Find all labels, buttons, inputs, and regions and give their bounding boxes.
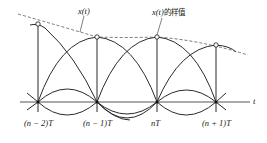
sample-dot-n-2 — [36, 22, 40, 26]
tick-label-n-2: (n − 2)T — [24, 118, 53, 128]
samples-label: x(t)的样值 — [152, 6, 185, 17]
leader-samples — [157, 18, 162, 35]
lobe-lower-3 — [157, 102, 216, 115]
axis-node-n-1 — [96, 101, 99, 104]
tick-label-n+1: (n + 1)T — [202, 118, 231, 128]
leader-xt — [80, 16, 84, 32]
axis-label-t: t — [253, 96, 255, 106]
axis-node-n-2 — [37, 101, 40, 104]
tick-label-n: nT — [151, 118, 160, 128]
lobe-tail-left — [27, 93, 38, 110]
sample-dot-n-1 — [95, 35, 99, 39]
lobe-upper-3 — [157, 90, 216, 102]
samples-label-suffix: 的样值 — [164, 8, 185, 17]
lobe-lower-2a — [97, 102, 157, 114]
lobe-tail-right — [216, 93, 226, 110]
axis-node-n+1 — [215, 101, 218, 104]
samples-label-prefix: x(t) — [152, 7, 164, 17]
lobe-upper-1 — [38, 89, 97, 102]
axis-node-n — [156, 101, 159, 104]
kernel-arc-n-2 — [30, 24, 97, 102]
kernel-arc-n+1 — [157, 45, 236, 102]
sample-dot-n — [155, 35, 159, 39]
signal-label: x(t) — [78, 6, 90, 16]
sample-dot-n+1 — [214, 43, 218, 47]
lobe-lower-1 — [38, 102, 97, 115]
tick-label-n-1: (n − 1)T — [83, 118, 112, 128]
